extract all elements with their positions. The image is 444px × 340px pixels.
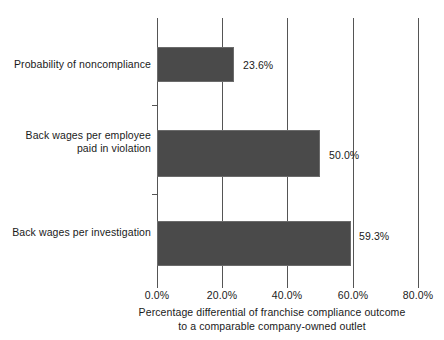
bar-value-label-2: 59.3% [359, 230, 389, 242]
bar-value-label-1: 50.0% [329, 149, 359, 161]
x-tick-60 [353, 283, 354, 288]
category-label-back-wages-per-investigation: Back wages per investigation [6, 226, 151, 239]
x-tick-label-40: 40.0% [257, 289, 317, 301]
bar-probability-of-noncompliance [157, 47, 234, 82]
category-label-probability-of-noncompliance: Probability of noncompliance [6, 58, 151, 71]
plot-area [157, 18, 418, 283]
x-axis-title: Percentage differential of franchise com… [107, 305, 437, 333]
bar-back-wages-per-investigation [157, 221, 351, 266]
x-tick-label-60: 60.0% [323, 289, 383, 301]
x-tick-0 [157, 283, 158, 288]
bar-back-wages-per-employee [157, 130, 320, 177]
x-tick-20 [222, 283, 223, 288]
bar-chart: Probability of noncompliance Back wages … [0, 0, 444, 340]
x-tick-label-20: 20.0% [192, 289, 252, 301]
x-tick-80 [418, 283, 419, 288]
category-label-back-wages-per-employee: Back wages per employee paid in violatio… [6, 129, 151, 155]
gridline-80 [418, 18, 419, 283]
y-tick-1 [152, 105, 157, 106]
y-tick-2 [152, 194, 157, 195]
x-tick-label-0: 0.0% [127, 289, 187, 301]
x-tick-40 [287, 283, 288, 288]
bar-value-label-0: 23.6% [243, 59, 273, 71]
x-tick-label-80: 80.0% [388, 289, 444, 301]
